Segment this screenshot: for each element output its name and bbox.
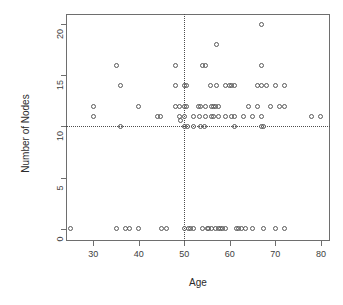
data-point: [259, 22, 264, 27]
data-point: [164, 226, 169, 231]
data-point: [158, 114, 163, 119]
x-axis-tick: [93, 241, 94, 246]
data-point: [173, 63, 178, 68]
data-point: [232, 83, 237, 88]
data-point: [127, 226, 132, 231]
data-point: [309, 114, 314, 119]
data-point: [203, 114, 208, 119]
y-axis-tick-label: 20: [55, 24, 65, 44]
data-point: [91, 114, 96, 119]
y-axis-tick-label: 15: [55, 75, 65, 95]
data-point: [259, 63, 264, 68]
x-axis-title: Age: [66, 277, 330, 288]
data-point: [197, 114, 202, 119]
data-point: [259, 114, 264, 119]
x-axis-tick-label: 40: [134, 249, 144, 259]
data-point: [282, 104, 287, 109]
data-point: [114, 226, 119, 231]
x-axis-tick: [184, 241, 185, 246]
data-point: [261, 124, 266, 129]
data-point: [282, 226, 287, 231]
data-point: [184, 104, 189, 109]
scatter-plot-figure: 05101520304050607080 Number of Nodes Age: [0, 0, 343, 305]
data-point: [318, 114, 323, 119]
y-axis-tick-label: 5: [55, 178, 65, 198]
data-point: [264, 83, 269, 88]
data-point: [191, 114, 196, 119]
x-axis-tick: [230, 241, 231, 246]
data-point: [223, 114, 228, 119]
data-point: [191, 124, 196, 129]
data-point: [268, 104, 273, 109]
data-point: [241, 114, 246, 119]
data-point: [216, 114, 221, 119]
data-point: [184, 83, 189, 88]
x-axis-tick-label: 70: [270, 249, 280, 259]
data-point: [214, 83, 219, 88]
data-point: [68, 226, 73, 231]
data-point: [223, 226, 228, 231]
y-axis-title: Number of Nodes: [20, 54, 31, 214]
data-point: [91, 104, 96, 109]
data-point: [250, 114, 255, 119]
data-point: [114, 63, 119, 68]
data-point: [203, 63, 208, 68]
data-point: [208, 83, 213, 88]
data-point: [118, 83, 123, 88]
data-point: [136, 104, 141, 109]
data-point: [273, 83, 278, 88]
data-point: [185, 124, 190, 129]
x-axis-tick-label: 50: [179, 249, 189, 259]
data-point: [203, 104, 208, 109]
data-point: [243, 226, 248, 231]
data-point: [216, 104, 221, 109]
data-point: [214, 42, 219, 47]
data-point: [250, 226, 255, 231]
x-axis-tick-label: 80: [316, 249, 326, 259]
data-point: [261, 226, 266, 231]
data-point: [232, 114, 237, 119]
data-point: [246, 104, 251, 109]
data-point: [173, 83, 178, 88]
x-axis-tick: [139, 241, 140, 246]
data-point: [232, 124, 237, 129]
x-axis-tick-label: 30: [88, 249, 98, 259]
y-axis-tick-label: 0: [55, 229, 65, 249]
x-axis-tick: [321, 241, 322, 246]
data-points-layer: [66, 14, 330, 241]
data-point: [191, 226, 196, 231]
data-point: [202, 124, 207, 129]
data-point: [282, 83, 287, 88]
data-point: [182, 114, 187, 119]
data-point: [255, 104, 260, 109]
data-point: [118, 124, 123, 129]
x-axis-tick: [275, 241, 276, 246]
data-point: [136, 226, 141, 231]
data-point: [273, 226, 278, 231]
x-axis-tick-label: 60: [225, 249, 235, 259]
y-axis-tick-label: 10: [55, 126, 65, 146]
